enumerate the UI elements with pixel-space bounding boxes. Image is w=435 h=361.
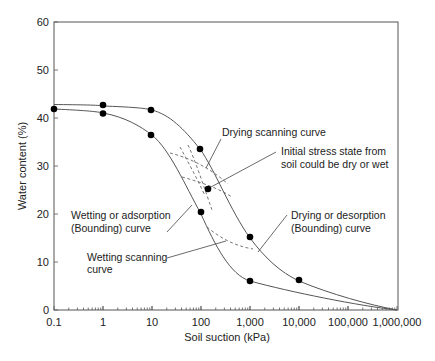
y-tick-label: 40 [37, 112, 49, 124]
x-tick-label: 100,000 [328, 316, 368, 328]
label-drying-bounding-line1: Drying or desorption [291, 209, 386, 221]
leader-initial-stress [211, 152, 276, 187]
data-point [247, 278, 254, 285]
y-tick-label: 0 [43, 304, 49, 316]
data-point [51, 106, 58, 113]
leader-wetting-scanning [167, 241, 226, 258]
y-axis-title: Water content (%) [16, 122, 28, 210]
label-wetting-scanning-line1: Wetting scanning [87, 251, 168, 263]
soil-water-characteristic-chart: 0 10 20 30 40 50 60 Water content (%) 0.… [0, 0, 435, 361]
x-tick-label: 10 [146, 316, 158, 328]
data-point [100, 110, 107, 117]
label-drying-bounding-line2: (Bounding) curve [291, 222, 371, 234]
label-drying-scanning: Drying scanning curve [222, 126, 326, 138]
x-tick-label: 100 [192, 316, 210, 328]
data-point [198, 209, 205, 216]
drying-scanning-curve-upper [170, 153, 228, 184]
x-tick-label: 1 [100, 316, 106, 328]
x-tick-label: 0.1 [46, 316, 61, 328]
y-tick-label: 60 [37, 16, 49, 28]
y-tick-label: 10 [37, 256, 49, 268]
label-initial-stress-line1: Initial stress state from [281, 145, 386, 157]
leader-drying-bounding [258, 215, 287, 252]
label-wetting-bounding-line1: Wetting or adsorption [71, 209, 171, 221]
leader-drying-scanning [206, 139, 221, 168]
wetting-scanning-curve [207, 227, 253, 249]
label-initial-stress-line2: soil could be dry or wet [281, 158, 388, 170]
scanning-curve-steep-right [188, 145, 212, 210]
x-tick-label: 10,000 [282, 316, 316, 328]
leader-wetting-bounding [167, 205, 192, 232]
data-point [148, 107, 155, 114]
x-axis-minor-ticks [54, 306, 397, 310]
y-axis: 0 10 20 30 40 50 60 Water content (%) [16, 16, 58, 316]
data-point [148, 132, 155, 139]
data-point [296, 277, 303, 284]
label-wetting-bounding-line2: (Bounding) curve [71, 222, 151, 234]
scanning-curve-steep-left [180, 147, 205, 196]
x-axis: 0.1 1 10 100 1,000 10,000 100,000 1,000,… [46, 316, 421, 343]
y-tick-label: 20 [37, 208, 49, 220]
data-point [247, 234, 254, 241]
data-point [197, 146, 204, 153]
y-tick-label: 30 [37, 160, 49, 172]
y-tick-label: 50 [37, 64, 49, 76]
x-axis-title: Soil suction (kPa) [184, 331, 270, 343]
data-point [100, 102, 107, 109]
x-tick-label: 1,000,000 [373, 316, 422, 328]
initial-stress-point [205, 186, 212, 193]
x-tick-label: 1,000 [236, 316, 264, 328]
label-wetting-scanning-line2: curve [87, 263, 113, 275]
